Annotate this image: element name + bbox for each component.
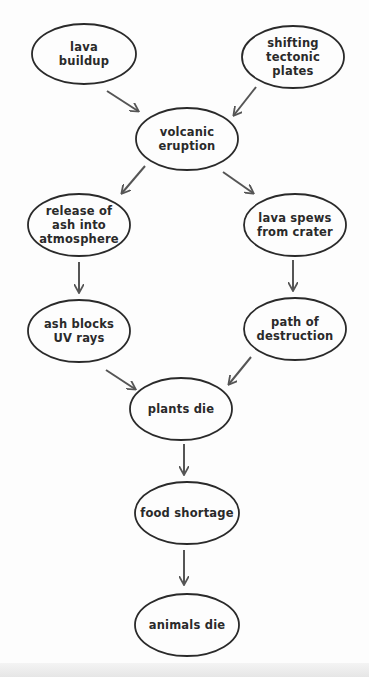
bottom-shadow-strip [0, 663, 369, 677]
node-label: plants die [148, 402, 214, 416]
node-volcanic-eruption: volcanic eruption [134, 106, 240, 172]
node-food-shortage: food shortage [133, 480, 241, 546]
node-shifting-tectonic-plates: shifting tectonic plates [240, 24, 346, 90]
node-label: food shortage [140, 506, 234, 520]
node-label: lava spews from crater [257, 211, 333, 239]
node-label: lava buildup [59, 40, 109, 68]
node-plants-die: plants die [128, 376, 234, 442]
node-release-of-ash: release of ash into atmosphere [26, 192, 132, 258]
node-label: volcanic eruption [158, 125, 215, 153]
arrow-eruption-to-lava-spews [223, 172, 253, 193]
node-path-of-destruction: path of destruction [242, 296, 348, 362]
node-label: release of ash into atmosphere [39, 204, 119, 246]
node-lava-buildup: lava buildup [30, 22, 138, 86]
node-lava-spews: lava spews from crater [242, 192, 348, 258]
node-label: ash blocks UV rays [44, 317, 114, 345]
diagram-canvas: lava buildup shifting tectonic plates vo… [0, 0, 369, 677]
node-label: shifting tectonic plates [266, 36, 320, 78]
node-ash-blocks-uv: ash blocks UV rays [26, 298, 132, 364]
node-label: path of destruction [257, 315, 334, 343]
node-label: animals die [149, 618, 226, 632]
node-animals-die: animals die [133, 592, 241, 658]
